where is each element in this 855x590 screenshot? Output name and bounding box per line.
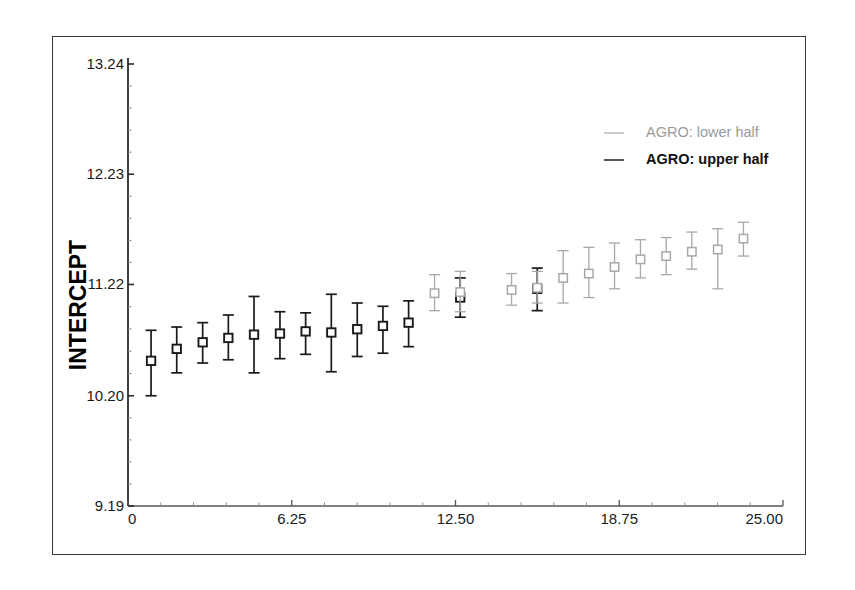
legend-label: AGRO: lower half: [646, 124, 760, 140]
x-axis-ticks: [128, 500, 783, 506]
error-bar-point: [352, 303, 363, 356]
y-axis-title: INTERCEPT: [65, 240, 91, 370]
y-axis-ticks: [128, 64, 134, 506]
error-bar-point: [403, 301, 414, 347]
error-bar-point: [197, 323, 208, 363]
error-bar-point: [661, 238, 672, 275]
legend-item: AGRO: lower half: [604, 124, 760, 140]
x-tick-label: 18.75: [600, 510, 638, 527]
error-bar-point: [171, 327, 182, 373]
chart-figure: 13.2412.2311.2210.209.19 06.2512.5018.75…: [0, 0, 855, 590]
error-bar-point: [712, 229, 723, 289]
x-tick-label: 6.25: [277, 510, 306, 527]
error-bar-point: [249, 296, 260, 372]
series-lower-half: [429, 222, 749, 311]
error-bar-point: [300, 313, 311, 354]
error-bar-point: [686, 232, 697, 269]
error-bar-point: [326, 294, 337, 371]
error-bar-point: [146, 330, 157, 395]
chart-legend: AGRO: lower halfAGRO: upper half: [604, 124, 769, 167]
y-tick-label: 10.20: [86, 387, 124, 404]
error-bar-plot: 13.2412.2311.2210.209.19 06.2512.5018.75…: [0, 0, 855, 590]
legend-label: AGRO: upper half: [646, 151, 769, 167]
error-bar-point: [609, 243, 620, 289]
y-tick-label: 9.19: [95, 497, 124, 514]
y-tick-label: 11.22: [88, 275, 124, 292]
series-upper-half: [146, 268, 543, 396]
y-tick-label: 13.24: [86, 55, 124, 72]
error-bar-point: [429, 275, 440, 311]
y-axis-tick-labels: 13.2412.2311.2210.209.19: [86, 55, 124, 514]
error-bar-point: [506, 274, 517, 306]
data-series-group: [146, 222, 749, 396]
error-bar-point: [274, 312, 285, 359]
x-tick-label: 25.00: [745, 510, 783, 527]
error-bar-point: [558, 251, 569, 303]
legend-item: AGRO: upper half: [604, 151, 769, 167]
error-bar-point: [532, 271, 543, 303]
x-tick-label: 12.50: [437, 510, 475, 527]
error-bar-point: [377, 306, 388, 353]
error-bar-point: [635, 240, 646, 278]
y-tick-label: 12.23: [86, 165, 124, 182]
error-bar-point: [583, 247, 594, 297]
error-bar-point: [738, 222, 749, 256]
x-axis-tick-labels: 06.2512.5018.7525.00: [128, 510, 783, 527]
error-bar-point: [223, 315, 234, 360]
x-tick-label: 0: [128, 510, 136, 527]
